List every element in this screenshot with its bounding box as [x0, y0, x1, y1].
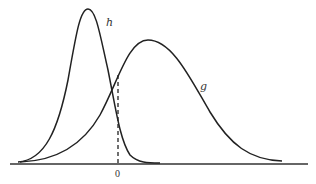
curve-g	[20, 40, 282, 162]
zero-tick-label: 0	[115, 168, 120, 179]
diagram-canvas: h g 0	[0, 0, 316, 184]
curve-h-label: h	[106, 16, 113, 29]
curve-h	[18, 9, 160, 163]
curve-g-label: g	[200, 80, 207, 93]
